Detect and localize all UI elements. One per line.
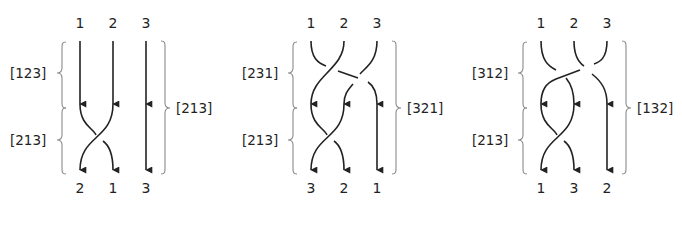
bottom-label-3: 2: [603, 180, 612, 196]
left-brace-upper: [57, 42, 66, 108]
braid-panel-1: 1 2 3 2 1 3 [123] [213] [213]: [10, 15, 212, 196]
strand-under: [311, 41, 326, 66]
strand: [594, 41, 607, 64]
left-lower-label: [213]: [242, 132, 278, 148]
arrow-icon: [344, 84, 353, 104]
strand-under: [311, 104, 327, 135]
strand-under: [574, 41, 584, 66]
strand: [360, 41, 377, 74]
strands-lower: [311, 104, 377, 170]
left-brace-upper: [518, 42, 527, 108]
right-brace: [161, 41, 170, 174]
bottom-label-2: 1: [109, 180, 118, 196]
strands-lower: [541, 104, 607, 170]
left-brace-lower: [518, 108, 527, 174]
arrow-icon: [368, 82, 377, 104]
bottom-label-2: 3: [570, 180, 579, 196]
right-label: [132]: [637, 100, 673, 116]
arrow-icon: [564, 141, 574, 170]
top-label-3: 3: [603, 15, 612, 31]
arrow-icon: [311, 41, 344, 104]
arrow-icon: [103, 141, 113, 170]
bottom-label-1: 3: [307, 180, 316, 196]
right-label: [321]: [407, 100, 443, 116]
top-label-1: 1: [307, 15, 316, 31]
left-upper-label: [231]: [242, 65, 278, 81]
bottom-label-3: 1: [373, 180, 382, 196]
strand-under: [541, 104, 557, 135]
arrow-icon: [80, 104, 113, 170]
right-label: [213]: [176, 100, 212, 116]
bottom-label-1: 2: [76, 180, 85, 196]
top-label-1: 1: [537, 15, 546, 31]
top-label-2: 2: [109, 15, 118, 31]
left-upper-label: [123]: [10, 65, 46, 81]
right-brace: [622, 41, 631, 174]
left-brace-lower: [57, 108, 66, 174]
right-brace: [392, 41, 401, 174]
top-label-2: 2: [570, 15, 579, 31]
left-brace-upper: [288, 42, 297, 108]
strand-under: [541, 41, 556, 70]
strands-upper: [80, 41, 146, 104]
braid-panel-3: 1 2 3 1 3 2 [312] [213] [132: [472, 15, 673, 196]
left-upper-label: [312]: [472, 65, 508, 81]
arrow-icon: [592, 74, 607, 104]
top-label-3: 3: [373, 15, 382, 31]
strands-upper: [541, 41, 607, 104]
top-label-2: 2: [340, 15, 349, 31]
braid-panel-2: 1 2 3 3 2 1 [231] [213] [321: [242, 15, 443, 196]
arrow-icon: [541, 104, 574, 170]
bottom-label-1: 1: [537, 180, 546, 196]
arrow-icon: [566, 78, 574, 104]
top-label-1: 1: [76, 15, 85, 31]
strand-under: [338, 71, 358, 78]
left-lower-label: [213]: [472, 132, 508, 148]
left-lower-label: [213]: [10, 132, 46, 148]
strands-lower: [80, 104, 146, 170]
arrow-icon: [334, 141, 344, 170]
bottom-label-2: 2: [340, 180, 349, 196]
arrow-icon: [311, 104, 344, 170]
bottom-label-3: 3: [142, 180, 151, 196]
top-label-3: 3: [142, 15, 151, 31]
strands-upper: [311, 41, 377, 104]
strand-under: [80, 104, 96, 135]
left-brace-lower: [288, 108, 297, 174]
